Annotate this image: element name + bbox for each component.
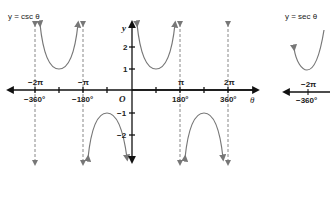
- sec-x-tick-neg360: −360°: [296, 96, 317, 105]
- y-tick-neg1: −1: [117, 109, 127, 118]
- sec-x-rad-neg2pi: −2π: [301, 80, 316, 89]
- origin-label: O: [119, 94, 126, 104]
- x-tick-180: 180°: [172, 95, 189, 104]
- x-rad-pi: π: [178, 78, 184, 87]
- y-axis-label: y: [121, 23, 127, 33]
- x-rad-2pi: 2π: [224, 78, 235, 87]
- y-tick-2: 2: [123, 43, 128, 52]
- y-tick-neg2: −2: [117, 131, 127, 140]
- csc-graph-figure: y = csc θ y θ O 2 1 −1: [0, 0, 330, 208]
- x-axis-label: θ: [250, 95, 255, 105]
- x-rad-neg2pi: −2π: [28, 78, 43, 87]
- graph-title-sec: y = sec θ: [285, 12, 318, 21]
- graph-title-csc: y = csc θ: [8, 12, 40, 21]
- y-tick-1: 1: [123, 65, 128, 74]
- csc-branch-4: [185, 113, 223, 158]
- sec-graph-partial: y = sec θ −2π −360°: [285, 12, 330, 105]
- x-tick-360: 360°: [220, 95, 237, 104]
- csc-branch-1: [40, 24, 78, 69]
- sec-branch: [294, 30, 324, 70]
- x-rad-negpi: −π: [78, 78, 89, 87]
- csc-branch-3: [137, 24, 175, 69]
- x-tick-neg360: −360°: [24, 95, 45, 104]
- x-tick-neg180: −180°: [72, 95, 93, 104]
